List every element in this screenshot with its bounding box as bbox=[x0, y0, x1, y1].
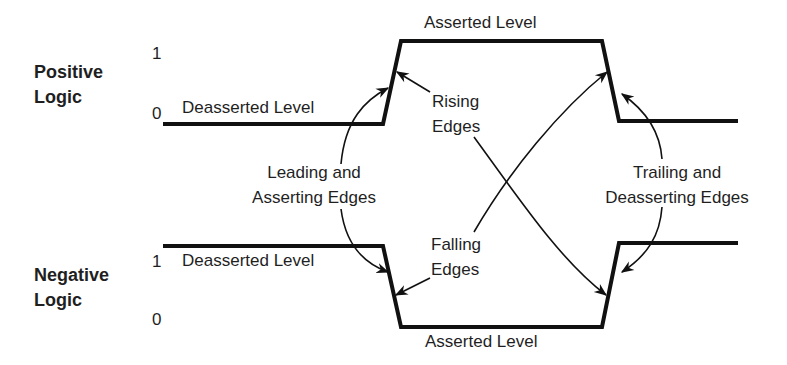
leading-asserting-edges-label-line2: Asserting Edges bbox=[226, 188, 402, 208]
negative-level-0-label: 0 bbox=[152, 310, 161, 330]
rising-edge-arrow-left bbox=[397, 72, 430, 92]
trailing-deasserting-edges-label-line2: Deasserting Edges bbox=[582, 188, 772, 208]
negative-level-1-label: 1 bbox=[152, 252, 161, 272]
falling-edge-arrow-left bbox=[396, 278, 430, 295]
leading-edge-arrow-down bbox=[341, 209, 388, 272]
positive-logic-title-line2: Logic bbox=[34, 85, 82, 109]
positive-deasserted-level-label: Deasserted Level bbox=[182, 98, 314, 118]
positive-level-1-label: 1 bbox=[152, 44, 161, 64]
negative-asserted-level-label: Asserted Level bbox=[425, 332, 537, 352]
positive-logic-title-line1: Positive bbox=[34, 60, 103, 84]
falling-edges-label-line1: Falling bbox=[431, 235, 481, 255]
rising-edges-label-line2: Edges bbox=[432, 117, 480, 137]
rising-edges-label-line1: Rising bbox=[432, 92, 479, 112]
negative-logic-title-line1: Negative bbox=[34, 263, 109, 287]
trailing-edge-arrow-down bbox=[622, 207, 662, 272]
falling-edge-arrow-to-right-rising bbox=[474, 72, 607, 232]
negative-logic-title-line2: Logic bbox=[34, 288, 82, 312]
trailing-deasserting-edges-label-line1: Trailing and bbox=[612, 163, 742, 183]
falling-edges-label-line2: Edges bbox=[431, 260, 479, 280]
positive-level-0-label: 0 bbox=[152, 104, 161, 124]
leading-asserting-edges-label-line1: Leading and bbox=[252, 163, 376, 183]
rising-edge-arrow-to-right-falling bbox=[474, 137, 606, 295]
positive-asserted-level-label: Asserted Level bbox=[424, 13, 536, 33]
trailing-edge-arrow-up bbox=[622, 94, 662, 159]
negative-deasserted-level-label: Deasserted Level bbox=[182, 251, 314, 271]
